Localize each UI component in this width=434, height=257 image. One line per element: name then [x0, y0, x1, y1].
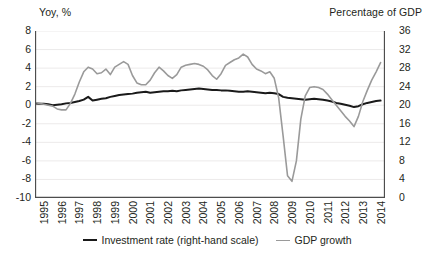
right-tick-label: 16	[399, 118, 411, 129]
plot-svg	[35, 31, 385, 198]
legend-label: GDP growth	[295, 235, 352, 246]
x-tick-label: 2002	[163, 201, 174, 224]
left-tick-label: 2	[5, 81, 31, 92]
left-tick-label: -2	[5, 118, 31, 129]
right-tick-label: 36	[399, 25, 411, 36]
left-tick-label: 0	[5, 99, 31, 110]
x-tick-label: 1996	[57, 201, 68, 224]
legend-swatch-icon	[276, 240, 290, 241]
x-tick-label: 2009	[287, 201, 298, 224]
x-tick-label: 1997	[74, 201, 85, 224]
left-tick-label: -6	[5, 155, 31, 166]
right-tick-label: 12	[399, 136, 411, 147]
right-tick-label: 8	[399, 155, 405, 166]
x-tick-label: 1998	[92, 201, 103, 224]
series-lines	[35, 54, 381, 181]
axis-lines	[35, 31, 385, 198]
left-tick-label: 6	[5, 44, 31, 55]
chart-legend: Investment rate (right-hand scale)GDP gr…	[0, 235, 434, 246]
legend-swatch-icon	[83, 239, 97, 241]
x-tick-label: 2001	[145, 201, 156, 224]
gridlines	[35, 31, 385, 198]
x-tick-label: 2005	[216, 201, 227, 224]
left-tick-label: 4	[5, 62, 31, 73]
right-tick-label: 32	[399, 44, 411, 55]
x-tick-label: 2003	[181, 201, 192, 224]
right-tick-label: 24	[399, 81, 411, 92]
left-tick-label: -10	[5, 192, 31, 203]
right-tick-label: 0	[399, 192, 405, 203]
left-axis-title: Yoy, %	[39, 6, 71, 18]
legend-label: Investment rate (right-hand scale)	[102, 235, 259, 246]
left-tick-label: -4	[5, 136, 31, 147]
x-tick-label: 2000	[128, 201, 139, 224]
right-tick-label: 4	[399, 173, 405, 184]
right-axis-tick-labels: 36322824201612840	[390, 31, 430, 198]
x-tick-label: 2014	[376, 201, 387, 224]
x-tick-label: 2010	[305, 201, 316, 224]
right-axis-title: Percentage of GDP	[329, 6, 422, 18]
x-axis-tick-labels: 1995199619971998199920002001200220032004…	[35, 198, 385, 234]
x-tick-label: 2006	[234, 201, 245, 224]
x-tick-label: 2012	[340, 201, 351, 224]
x-tick-label: 2007	[252, 201, 263, 224]
left-axis-tick-labels: 86420-2-4-6-8-10	[0, 31, 31, 198]
x-tick-label: 2004	[198, 201, 209, 224]
x-tick-label: 1995	[39, 201, 50, 224]
legend-item-investment-rate[interactable]: Investment rate (right-hand scale)	[83, 235, 259, 246]
left-tick-label: -8	[5, 173, 31, 184]
right-tick-label: 28	[399, 62, 411, 73]
gdp-investment-chart: Yoy, % Percentage of GDP 86420-2-4-6-8-1…	[0, 0, 434, 257]
left-tick-label: 8	[5, 25, 31, 36]
x-tick-label: 2013	[358, 201, 369, 224]
series-line-gdp-growth	[35, 54, 381, 181]
x-tick-label: 1999	[110, 201, 121, 224]
x-tick-label: 2011	[323, 201, 334, 224]
series-line-investment-rate	[35, 89, 381, 108]
x-tick-label: 2008	[269, 201, 280, 224]
right-tick-label: 20	[399, 99, 411, 110]
plot-area	[35, 31, 385, 198]
legend-item-gdp-growth[interactable]: GDP growth	[276, 235, 352, 246]
